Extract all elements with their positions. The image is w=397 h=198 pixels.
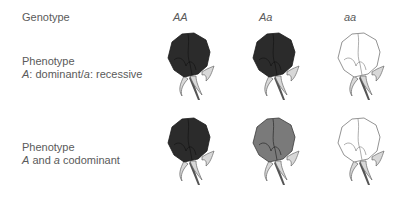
flower-dominant-aa <box>330 30 390 100</box>
description-tail: codominant <box>60 154 120 166</box>
phenotype-codominant-header: Phenotype A and a codominant <box>22 141 120 167</box>
genotype-AA-header: AA <box>173 11 188 23</box>
gray-flower-icon <box>245 115 305 185</box>
codominance-description: A and a codominant <box>22 154 120 167</box>
dark-flower-icon <box>160 30 220 100</box>
dominance-description: A: dominant/a: recessive <box>22 68 142 81</box>
flower-codominant-Aa <box>245 115 305 185</box>
conjunction: and <box>29 154 53 166</box>
white-flower-icon <box>330 115 390 185</box>
phenotype-label: Phenotype <box>22 141 120 154</box>
genotype-aa-header: aa <box>344 11 356 23</box>
flower-codominant-aa <box>330 115 390 185</box>
genotype-header: Genotype <box>22 11 70 24</box>
phenotype-label: Phenotype <box>22 55 142 68</box>
white-flower-icon <box>330 30 390 100</box>
genotype-Aa-header: Aa <box>259 11 272 23</box>
phenotype-dominant-header: Phenotype A: dominant/a: recessive <box>22 55 142 81</box>
dark-flower-icon <box>245 30 305 100</box>
separator: : dominant/ <box>29 68 83 80</box>
genotype-label: Genotype <box>22 11 70 23</box>
flower-dominant-Aa <box>245 30 305 100</box>
flower-dominant-AA <box>160 30 220 100</box>
separator: : recessive <box>90 68 143 80</box>
dark-flower-icon <box>160 115 220 185</box>
flower-codominant-AA <box>160 115 220 185</box>
